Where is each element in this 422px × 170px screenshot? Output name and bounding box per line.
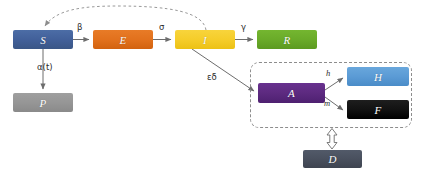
edge-i-to-a bbox=[192, 49, 254, 91]
edge-label-sigma: σ bbox=[159, 23, 164, 32]
node-H-label: H bbox=[374, 71, 382, 83]
edge-label-m: m bbox=[324, 99, 330, 108]
edge-label-epsilon-delta: εδ bbox=[207, 73, 217, 82]
node-D[interactable]: D bbox=[303, 150, 362, 168]
node-S-label: S bbox=[40, 34, 46, 46]
node-F-label: F bbox=[375, 104, 382, 116]
node-R[interactable]: R bbox=[257, 30, 317, 49]
node-D-label: D bbox=[328, 153, 336, 165]
node-I[interactable]: I bbox=[175, 30, 235, 49]
edge-group-to-d-double-arrow bbox=[327, 129, 337, 150]
node-E-label: E bbox=[120, 34, 127, 46]
node-R-label: R bbox=[284, 34, 291, 46]
node-P-label: P bbox=[40, 97, 47, 109]
diagram-canvas: S E I R P A H F D β σ γ α(t) εδ h m bbox=[0, 0, 422, 170]
edge-i-to-s-feedback bbox=[45, 6, 206, 30]
edge-label-beta: β bbox=[77, 23, 82, 32]
node-A-label: A bbox=[288, 87, 295, 99]
node-A[interactable]: A bbox=[258, 83, 325, 103]
node-H[interactable]: H bbox=[347, 67, 409, 86]
edge-label-alpha-t: α(t) bbox=[37, 63, 53, 72]
edge-label-h: h bbox=[326, 69, 330, 78]
node-F[interactable]: F bbox=[347, 100, 409, 119]
node-S[interactable]: S bbox=[13, 30, 73, 49]
node-E[interactable]: E bbox=[93, 30, 153, 49]
edge-label-gamma: γ bbox=[241, 23, 246, 32]
node-I-label: I bbox=[203, 34, 207, 46]
node-P[interactable]: P bbox=[13, 93, 73, 112]
